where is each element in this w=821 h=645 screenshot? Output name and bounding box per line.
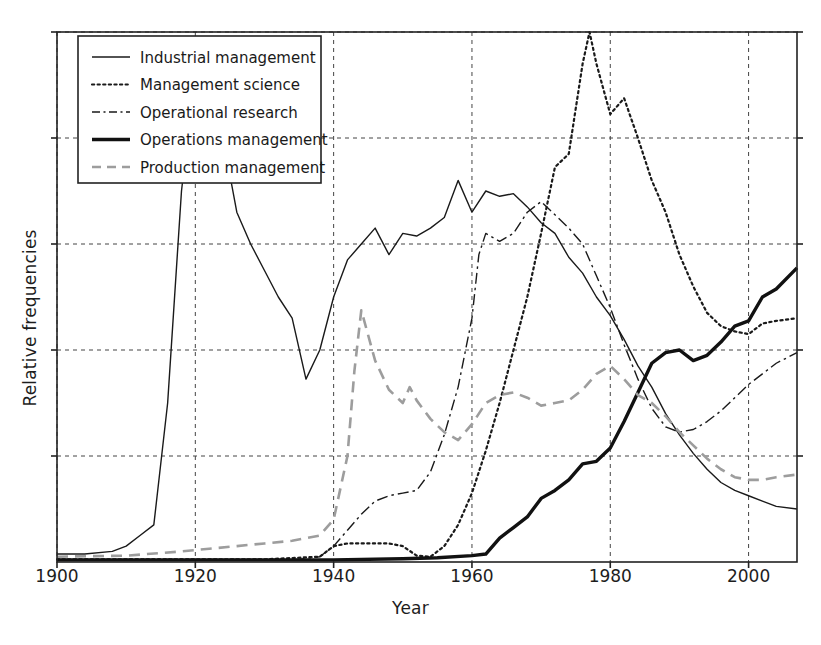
y-axis-title: Relative frequencies: [20, 138, 40, 498]
legend-label-production-management: Production management: [140, 159, 325, 177]
legend-label-operational-research: Operational research: [140, 104, 298, 122]
legend-label-operations-management: Operations management: [140, 131, 328, 149]
x-tick-label-1900: 1900: [12, 566, 102, 586]
series-line-production-management: [57, 310, 797, 556]
series-line-operational-research: [57, 202, 797, 560]
chart-figure: Industrial managementManagement scienceO…: [0, 0, 821, 645]
x-tick-label-1940: 1940: [289, 566, 379, 586]
x-tick-label-1920: 1920: [150, 566, 240, 586]
x-tick-label-2000: 2000: [704, 566, 794, 586]
x-tick-label-1980: 1980: [565, 566, 655, 586]
legend-label-management-science: Management science: [140, 76, 300, 94]
legend-label-industrial-management: Industrial management: [140, 49, 316, 67]
x-axis-title: Year: [0, 598, 821, 618]
x-tick-label-1960: 1960: [427, 566, 517, 586]
chart-legend: Industrial managementManagement scienceO…: [78, 36, 328, 183]
line-chart-canvas: Industrial managementManagement scienceO…: [0, 0, 821, 645]
